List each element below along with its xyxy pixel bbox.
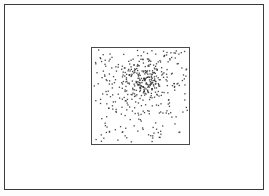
plot-box bbox=[91, 47, 190, 145]
figure-root bbox=[0, 0, 269, 196]
outer-frame bbox=[4, 4, 264, 190]
scatter-plot-canvas bbox=[92, 48, 189, 144]
